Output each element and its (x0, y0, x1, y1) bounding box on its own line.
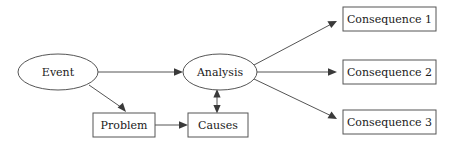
edge-problem-to-causes (155, 121, 188, 129)
flowchart-diagram: Event Analysis Problem Causes Consequenc… (0, 0, 456, 146)
node-causes[interactable]: Causes (188, 113, 248, 137)
edge-analysis-to-consequence1 (254, 21, 337, 65)
node-problem[interactable]: Problem (93, 113, 155, 137)
node-causes-label: Causes (198, 119, 238, 132)
edge-event-to-problem-arrowhead (118, 103, 126, 112)
node-analysis[interactable]: Analysis (183, 54, 257, 90)
node-analysis-label: Analysis (196, 66, 243, 79)
edge-event-to-analysis-arrowhead (174, 68, 183, 76)
node-consequence-1[interactable]: Consequence 1 (343, 7, 436, 31)
edge-problem-to-causes-arrowhead (179, 121, 188, 129)
edge-analysis-to-consequence1-arrowhead (327, 21, 337, 28)
edge-analysis-to-consequence2-arrowhead (328, 68, 337, 76)
edge-event-to-problem-line (89, 85, 122, 108)
edge-event-to-analysis (98, 68, 183, 76)
node-event-label: Event (42, 66, 75, 79)
node-consequence-3[interactable]: Consequence 3 (343, 110, 436, 134)
edge-analysis-causes-arrowhead-down (213, 105, 220, 114)
edge-analysis-to-consequence1-line (254, 25, 331, 66)
node-consequence-1-label: Consequence 1 (347, 13, 432, 26)
edge-analysis-causes-bidirectional (213, 89, 220, 114)
edge-event-to-problem (89, 85, 126, 112)
node-consequence-3-label: Consequence 3 (347, 116, 432, 129)
node-event[interactable]: Event (18, 54, 98, 90)
diagram-canvas: Event Analysis Problem Causes Consequenc… (0, 0, 456, 146)
node-consequence-2-label: Consequence 2 (347, 66, 432, 79)
edge-analysis-to-consequence3 (254, 79, 337, 119)
node-consequence-2[interactable]: Consequence 2 (343, 60, 436, 84)
edge-analysis-to-consequence3-line (254, 79, 331, 116)
edge-analysis-to-consequence2 (257, 68, 337, 76)
node-problem-label: Problem (101, 119, 148, 132)
